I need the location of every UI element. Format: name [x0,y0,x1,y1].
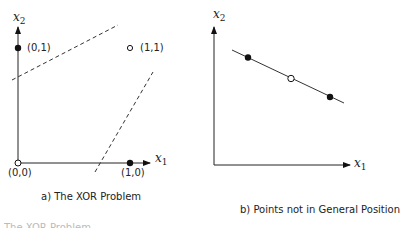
label-1-1: (1,1) [140,42,164,53]
panel-a-y-axis-label: x2 [13,10,26,26]
label-0-1: (0,1) [27,42,51,53]
point-b-1 [245,54,251,60]
point-b-3 [327,94,333,100]
point-1-0 [127,160,133,166]
panel-b-y-axis-label: x2 [213,7,226,23]
point-0-1 [15,45,21,51]
panel-b-x-axis-label: x1 [354,156,367,172]
point-0-0 [15,160,21,166]
footer-fragment: The XOR Problem [4,222,91,228]
label-0-0: (0,0) [8,167,32,178]
panel-b-caption: b) Points not in General Position [240,204,400,215]
panel-a-caption: a) The XOR Problem [41,191,141,202]
panel-a-x-axis-label: x1 [155,151,168,167]
point-b-2 [288,75,294,81]
point-1-1 [127,45,132,50]
label-1-0: (1,0) [121,167,145,178]
